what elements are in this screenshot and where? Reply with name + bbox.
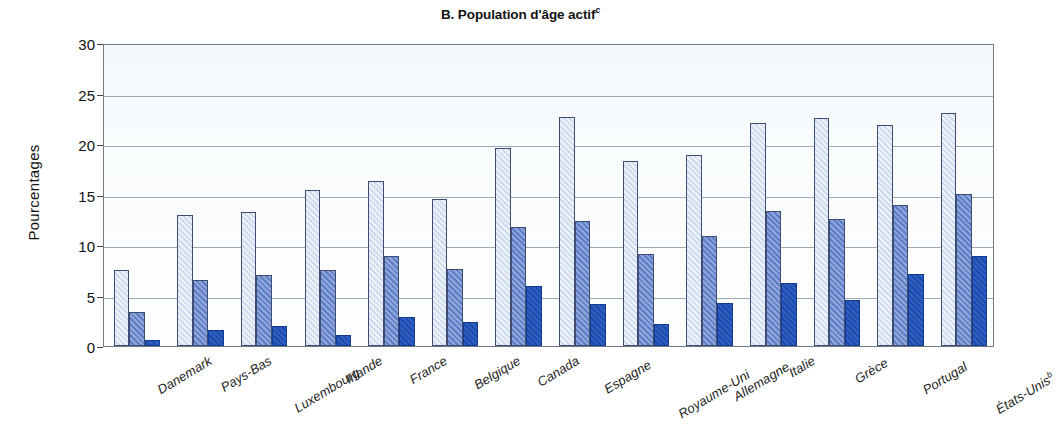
bar-group	[432, 45, 479, 346]
x-axis-label-superscript: b	[1045, 369, 1054, 380]
bar	[511, 227, 527, 346]
bar-group	[177, 45, 224, 346]
bar	[956, 194, 972, 347]
bar	[814, 118, 830, 346]
x-axis-label: Grèce	[852, 355, 891, 386]
bar	[495, 148, 511, 346]
x-axis-label: Canada	[534, 353, 581, 390]
x-axis-label: États-Unisb	[992, 369, 1057, 417]
x-axis-label: Espagne	[601, 357, 653, 397]
bar	[384, 256, 400, 346]
bar-group	[559, 45, 606, 346]
bar	[781, 283, 797, 346]
bar	[575, 221, 591, 346]
bar	[463, 322, 479, 346]
bar	[941, 113, 957, 346]
bar-groups	[104, 45, 993, 346]
bar	[702, 236, 718, 346]
bar	[129, 312, 145, 346]
bar	[399, 317, 415, 346]
x-axis-labels: DanemarkPays-BasLuxembourgIrlandeFranceB…	[103, 349, 994, 444]
y-axis-tick-label: 25	[55, 87, 95, 102]
bar	[559, 117, 575, 346]
bar	[432, 199, 448, 346]
bar-group	[368, 45, 415, 346]
bar	[766, 211, 782, 346]
bar	[368, 181, 384, 346]
bar-group	[686, 45, 733, 346]
x-axis-label: France	[406, 353, 449, 387]
bar	[750, 123, 766, 346]
bar-group	[623, 45, 670, 346]
bar	[447, 269, 463, 346]
x-axis-label: Italie	[786, 353, 818, 380]
bar	[717, 303, 733, 346]
bar	[845, 300, 861, 346]
bar	[908, 274, 924, 346]
x-axis-label: Irlande	[343, 353, 385, 387]
bar	[829, 219, 845, 346]
bar	[877, 125, 893, 346]
chart-title-text: B. Population d'âge actif	[441, 7, 595, 22]
x-axis-label: Danemark	[155, 353, 215, 397]
bar-group	[941, 45, 988, 346]
bar	[305, 190, 321, 346]
bar	[193, 280, 209, 346]
bar	[336, 335, 352, 346]
bar	[623, 161, 639, 346]
x-axis-label: Pays-Bas	[218, 353, 274, 395]
bar	[177, 215, 193, 346]
y-axis-tick-label: 0	[55, 340, 95, 355]
bar-group	[241, 45, 288, 346]
y-axis-tick-mark	[97, 347, 103, 348]
y-axis-tick-label: 10	[55, 239, 95, 254]
bar	[256, 275, 272, 346]
bar	[590, 304, 606, 346]
bar	[893, 205, 909, 346]
bar	[526, 286, 542, 346]
bar	[972, 256, 988, 346]
bar-group	[814, 45, 861, 346]
plot-area	[103, 44, 994, 347]
x-axis-label: Portugal	[920, 359, 970, 397]
chart-title-superscript: c	[595, 5, 600, 15]
chart-title: B. Population d'âge actifc	[0, 5, 1041, 22]
bar	[686, 155, 702, 346]
bar	[272, 326, 288, 346]
bar	[638, 254, 654, 346]
bar	[145, 340, 161, 346]
y-axis-tick-label: 20	[55, 138, 95, 153]
bar	[208, 330, 224, 346]
x-axis-label: Belgique	[472, 353, 524, 392]
bar-group	[114, 45, 161, 346]
bar-group	[877, 45, 924, 346]
y-axis-tick-label: 30	[55, 37, 95, 52]
bar	[241, 212, 257, 346]
bar	[654, 324, 670, 346]
bar-group	[750, 45, 797, 346]
y-axis-title: Pourcentages	[25, 63, 42, 323]
bar-group	[495, 45, 542, 346]
y-axis-tick-label: 5	[55, 289, 95, 304]
bar-group	[305, 45, 352, 346]
bar	[320, 270, 336, 346]
bar	[114, 270, 130, 346]
y-axis-tick-label: 15	[55, 188, 95, 203]
